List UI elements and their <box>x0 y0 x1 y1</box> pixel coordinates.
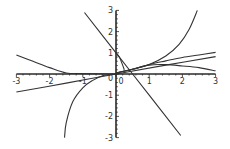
curve-decay-left <box>16 55 116 74</box>
x-tick-label: 0 <box>118 77 123 86</box>
y-tick-label: -2 <box>105 112 113 121</box>
y-tick-label: -3 <box>105 134 113 143</box>
x-tick-label: 2 <box>180 77 185 86</box>
y-tick-label: 3 <box>108 6 113 15</box>
x-tick-label: 1 <box>147 77 152 86</box>
y-tick-label: 2 <box>108 28 113 37</box>
function-plot: -3-2-101233210-1-2-3 <box>0 0 230 149</box>
x-tick-label: -2 <box>46 77 54 86</box>
y-tick-label: -1 <box>105 91 113 100</box>
y-tick-label: 1 <box>108 49 113 58</box>
curve-blowup-left <box>65 74 116 138</box>
curve-blowup-right <box>116 10 197 73</box>
x-tick-label: 3 <box>213 77 218 86</box>
x-tick-label: -3 <box>12 77 20 86</box>
